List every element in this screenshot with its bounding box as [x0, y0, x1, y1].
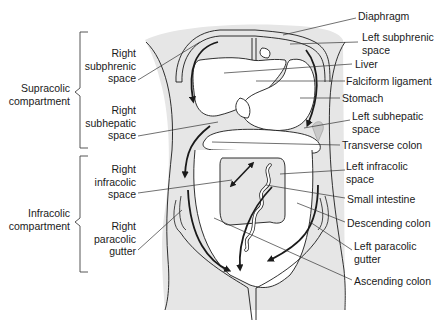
label-diaphragm: Diaphragm: [358, 10, 409, 23]
label-ascending-colon: Ascending colon: [354, 275, 431, 288]
label-right-infracolic-space: Right infracolic space: [78, 163, 136, 201]
label-right-paracolic-gutter: Right paracolic gutter: [78, 220, 136, 258]
label-descending-colon: Descending colon: [347, 217, 430, 230]
label-liver: Liver: [355, 58, 378, 71]
label-left-subhepatic-space: Left subhepatic space: [352, 110, 423, 135]
label-falciform-ligament: Falciform ligament: [346, 75, 432, 88]
label-left-paracolic-gutter: Left paracolic gutter: [354, 240, 416, 265]
label-supracolic-compartment: Supracolic compartment: [8, 82, 70, 107]
label-stomach: Stomach: [342, 92, 383, 105]
label-infracolic-compartment: Infracolic compartment: [8, 207, 70, 232]
label-right-subhepatic-space: Right subhepatic space: [78, 104, 136, 142]
label-small-intestine: Small intestine: [347, 193, 415, 206]
label-left-subphrenic-space: Left subphrenic space: [362, 31, 434, 56]
label-right-subphrenic-space: Right subphrenic space: [78, 47, 136, 85]
peritoneal-diagram: Supracolic compartment Infracolic compar…: [0, 0, 438, 321]
label-transverse-colon: Transverse colon: [342, 139, 422, 152]
label-left-infracolic-space: Left infracolic space: [346, 160, 408, 185]
